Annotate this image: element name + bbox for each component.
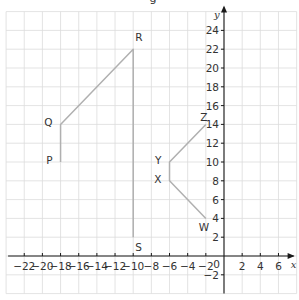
vertex-label-y: Y — [154, 154, 162, 166]
y-axis-arrow-icon — [221, 6, 227, 13]
y-tick-label: 24 — [206, 24, 220, 36]
x-tick-label: 2 — [239, 260, 246, 272]
y-tick-label: 18 — [206, 81, 219, 93]
coordinate-grid: g PQRSWXYZxy0−22−20−18−16−14−12−10−8−6−4… — [0, 0, 299, 300]
y-tick-label: 10 — [206, 156, 219, 168]
x-tick-label: −4 — [180, 260, 196, 272]
x-tick-label: −8 — [144, 260, 159, 272]
y-tick-label: −2 — [204, 269, 219, 281]
caption-fragment: g — [150, 0, 157, 5]
vertex-label-x: X — [154, 173, 161, 185]
vertex-label-q: Q — [44, 116, 52, 128]
x-tick-label: 4 — [257, 260, 264, 272]
vertex-label-r: R — [135, 31, 142, 43]
y-tick-label: 2 — [212, 231, 219, 243]
x-axis-label: x — [291, 259, 297, 270]
y-tick-label: 20 — [206, 62, 219, 74]
y-tick-label: 22 — [206, 43, 219, 55]
grid-lines — [6, 12, 297, 294]
y-tick-label: 4 — [212, 212, 219, 224]
y-tick-label: 8 — [212, 175, 219, 187]
y-tick-label: 16 — [206, 100, 220, 112]
vertex-label-p: P — [46, 154, 52, 166]
y-tick-label: 12 — [206, 137, 219, 149]
vertex-label-w: W — [199, 221, 210, 233]
vertex-label-s: S — [135, 241, 142, 253]
y-tick-label: 14 — [206, 118, 220, 130]
x-tick-label: 6 — [275, 260, 282, 272]
y-tick-label: 6 — [212, 194, 219, 206]
x-tick-label: −10 — [122, 260, 144, 272]
y-axis-label: y — [213, 9, 220, 20]
x-tick-label: −6 — [162, 260, 178, 272]
